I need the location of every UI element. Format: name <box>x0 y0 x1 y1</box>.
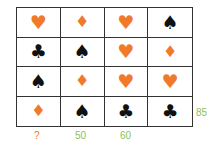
grid-cell: ♥ <box>105 38 149 68</box>
grid-cell: ♦ <box>17 97 61 127</box>
club-icon: ♣ <box>162 102 179 121</box>
grid-cell: ♣ <box>17 38 61 68</box>
row-label-4: 85 <box>196 107 207 118</box>
grid-cell: ♠ <box>61 38 105 68</box>
grid-cell: ♠ <box>61 97 105 127</box>
diamond-icon: ♦ <box>163 44 177 60</box>
spade-icon: ♠ <box>162 13 179 32</box>
heart-icon: ♥ <box>117 42 134 61</box>
grid-cell: ♠ <box>148 8 192 38</box>
heart-icon: ♥ <box>30 13 47 32</box>
grid-cell: ♥ <box>17 8 61 38</box>
grid-cell: ♠ <box>17 67 61 97</box>
spade-icon: ♠ <box>74 42 91 61</box>
grid-cell: ♦ <box>61 8 105 38</box>
grid-cell: ♥ <box>148 67 192 97</box>
club-icon: ♣ <box>30 42 47 61</box>
grid-cell: ♦ <box>61 67 105 97</box>
diamond-icon: ♦ <box>75 14 89 30</box>
column-label-2: 50 <box>75 130 86 141</box>
grid-cell: ♥ <box>105 67 149 97</box>
grid-cell: ♦ <box>148 38 192 68</box>
heart-icon: ♥ <box>162 72 179 91</box>
heart-icon: ♥ <box>117 13 134 32</box>
diamond-icon: ♦ <box>31 103 45 119</box>
grid-cell: ♣ <box>105 97 149 127</box>
column-label-1: ? <box>34 130 40 141</box>
heart-icon: ♥ <box>117 72 134 91</box>
spade-icon: ♠ <box>74 102 91 121</box>
suit-puzzle-grid: ♥♦♥♠♣♠♥♦♠♦♥♥♦♠♣♣ <box>16 7 193 127</box>
column-label-3: 60 <box>120 130 131 141</box>
grid-cell: ♥ <box>105 8 149 38</box>
spade-icon: ♠ <box>30 72 47 91</box>
club-icon: ♣ <box>117 102 134 121</box>
diamond-icon: ♦ <box>75 73 89 89</box>
grid-cell: ♣ <box>148 97 192 127</box>
